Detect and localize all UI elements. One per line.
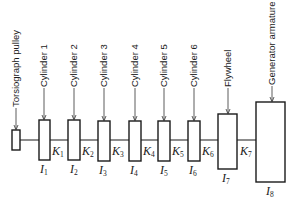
label-cylinder-2: Cylinder 2 xyxy=(68,44,79,87)
cylinder-3-box xyxy=(98,121,110,161)
cylinder-4-box xyxy=(129,121,141,161)
i5-label: I5 xyxy=(159,163,168,178)
label-cylinder-1: Cylinder 1 xyxy=(38,44,49,87)
flywheel-box xyxy=(218,114,237,169)
label-cylinder-6: Cylinder 6 xyxy=(188,44,199,87)
cylinder-5-box xyxy=(158,121,170,161)
cylinder-6-box xyxy=(188,121,200,161)
k7-label: K7 xyxy=(239,144,252,159)
cylinder-1-box xyxy=(39,120,50,160)
i6-label: I6 xyxy=(188,163,197,178)
i2-label: I2 xyxy=(69,162,78,177)
torsiograph-pulley-box xyxy=(12,130,20,150)
i3-label: I3 xyxy=(98,163,107,178)
cylinder-2-box xyxy=(68,120,80,160)
k1-label: K1 xyxy=(51,144,64,159)
k3-label: K3 xyxy=(111,144,124,159)
generator-armature-box xyxy=(256,102,285,182)
label-cylinder-3: Cylinder 3 xyxy=(98,44,109,87)
label-flywheel: Flywheel xyxy=(222,50,233,88)
i7-label: I7 xyxy=(221,171,230,186)
k5-label: K5 xyxy=(171,144,184,159)
i1-label: I1 xyxy=(39,162,48,177)
i4-label: I4 xyxy=(129,163,138,178)
shaft-diagram: Torsiograph pulley Cylinder 1 Cylinder 2… xyxy=(0,0,294,205)
label-torsiograph-pulley: Torsiograph pulley xyxy=(10,30,21,107)
k2-label: K2 xyxy=(81,144,94,159)
k4-label: K4 xyxy=(142,144,155,159)
label-generator-armature: Generator armature xyxy=(266,2,277,85)
inertia-labels: I1 I2 I3 I4 I5 I6 I7 I8 xyxy=(39,162,274,199)
label-cylinder-4: Cylinder 4 xyxy=(129,44,140,87)
label-cylinder-5: Cylinder 5 xyxy=(158,44,169,87)
i8-label: I8 xyxy=(265,184,274,199)
k6-label: K6 xyxy=(201,144,214,159)
